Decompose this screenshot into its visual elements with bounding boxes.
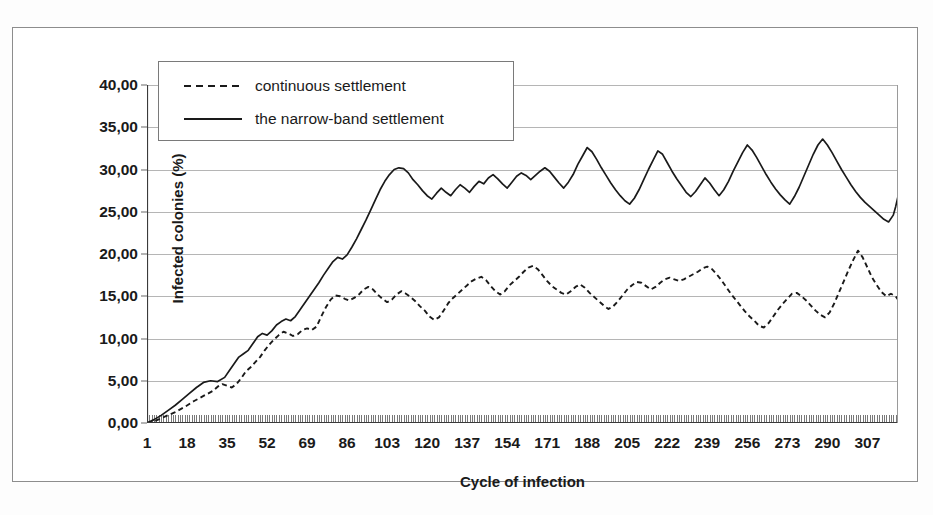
legend-item-continuous-settlement: continuous settlement	[159, 69, 513, 102]
x-tick-label-4: 69	[298, 434, 315, 452]
chart-figure: Infected colonies (%) 0,005,0010,0015,00…	[0, 0, 933, 515]
x-tick-label-12: 205	[614, 434, 640, 452]
x-tick-label-1: 18	[178, 434, 195, 452]
y-tick-label-6: 30,00	[99, 161, 138, 179]
series-line-0	[147, 251, 898, 423]
x-axis-tick-marks	[148, 415, 899, 423]
x-tick-label-5: 86	[338, 434, 355, 452]
y-tick-mark-3	[141, 296, 147, 297]
y-tick-mark-7	[141, 127, 147, 128]
y-tick-label-5: 25,00	[99, 203, 138, 221]
y-tick-mark-6	[141, 169, 147, 170]
y-tick-label-7: 35,00	[99, 118, 138, 136]
data-series-group	[147, 139, 898, 423]
y-tick-mark-4	[141, 254, 147, 255]
x-tick-label-3: 52	[258, 434, 275, 452]
y-tick-label-4: 20,00	[99, 245, 138, 263]
x-tick-label-10: 171	[534, 434, 560, 452]
chart-outer-frame: Infected colonies (%) 0,005,0010,0015,00…	[12, 27, 918, 482]
x-axis-title: Cycle of infection	[147, 473, 898, 490]
x-tick-label-18: 307	[854, 434, 880, 452]
y-tick-mark-8	[141, 85, 147, 86]
y-tick-label-0: 0,00	[108, 414, 138, 432]
series-line-1	[147, 139, 898, 423]
x-tick-label-13: 222	[654, 434, 680, 452]
y-tick-mark-0	[141, 423, 147, 424]
y-tick-label-2: 10,00	[99, 330, 138, 348]
x-tick-label-11: 188	[574, 434, 600, 452]
y-tick-label-8: 40,00	[99, 76, 138, 94]
x-tick-label-15: 256	[734, 434, 760, 452]
x-tick-label-7: 120	[414, 434, 440, 452]
x-tick-label-2: 35	[218, 434, 235, 452]
y-tick-label-3: 15,00	[99, 287, 138, 305]
chart-legend: continuous settlement the narrow-band se…	[158, 61, 514, 141]
x-tick-label-8: 137	[454, 434, 480, 452]
y-tick-mark-1	[141, 380, 147, 381]
legend-swatch-dashed	[183, 80, 243, 92]
x-tick-label-6: 103	[374, 434, 400, 452]
y-tick-mark-2	[141, 338, 147, 339]
x-tick-label-16: 273	[774, 434, 800, 452]
y-tick-label-1: 5,00	[108, 372, 138, 390]
legend-item-narrow-band-settlement: the narrow-band settlement	[159, 102, 513, 135]
x-tick-label-14: 239	[694, 434, 720, 452]
x-tick-label-0: 1	[143, 434, 152, 452]
legend-label-1: the narrow-band settlement	[255, 110, 444, 128]
x-tick-label-17: 290	[814, 434, 840, 452]
y-tick-mark-5	[141, 211, 147, 212]
legend-swatch-solid	[183, 113, 243, 125]
legend-label-0: continuous settlement	[255, 77, 406, 95]
x-tick-label-9: 154	[494, 434, 520, 452]
